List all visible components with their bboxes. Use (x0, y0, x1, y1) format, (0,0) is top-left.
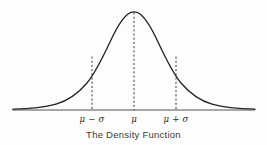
density-function-figure: μ − σ μ μ + σ The Density Function (0, 0, 267, 145)
tick-label-mu-plus-sigma: μ + σ (164, 114, 189, 124)
figure-caption: The Density Function (0, 129, 267, 140)
tick-label-mu-minus-sigma: μ − σ (80, 114, 105, 124)
tick-label-mu: μ (131, 114, 137, 124)
